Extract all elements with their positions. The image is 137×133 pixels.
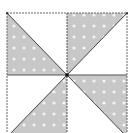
center-point <box>65 73 69 77</box>
pinwheel-quilt-block <box>0 0 137 133</box>
corner-point-top-left <box>6 12 8 14</box>
corner-point-top-right <box>126 12 128 14</box>
